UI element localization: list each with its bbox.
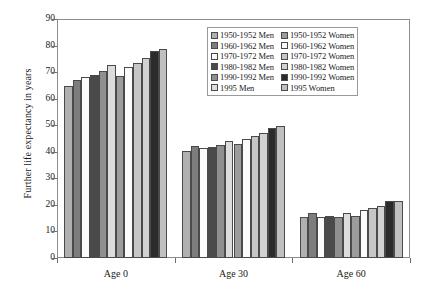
y-axis-tick-label: 20 [21, 200, 55, 210]
legend-swatch-icon [281, 53, 288, 60]
bar [90, 75, 99, 258]
legend-item[interactable]: 1995 Men [211, 83, 274, 94]
bar [107, 65, 116, 258]
legend-label: 1960-1962 Men [220, 41, 274, 52]
chart-legend: 1950-1952 Men1960-1962 Men1970-1972 Men1… [207, 27, 358, 96]
legend-item[interactable]: 1960-1962 Women [281, 41, 354, 52]
y-axis-tick-label: 30 [21, 174, 55, 184]
legend-item[interactable]: 1990-1992 Men [211, 72, 274, 83]
legend-label: 1950-1952 Men [220, 30, 274, 41]
y-axis-title: Further life expectancy in years [22, 24, 33, 244]
legend-swatch-icon [281, 74, 288, 81]
legend-item[interactable]: 1970-1972 Women [281, 51, 354, 62]
legend-label: 1980-1982 Women [290, 62, 354, 73]
legend-label: 1995 Women [290, 83, 335, 94]
y-axis-tick-label: 10 [21, 227, 55, 237]
bar [394, 201, 403, 258]
bar [133, 63, 142, 258]
bar [360, 210, 369, 258]
legend-item[interactable]: 1995 Women [281, 83, 354, 94]
legend-swatch-icon [281, 32, 288, 39]
legend-swatch-icon [211, 63, 218, 70]
y-axis-tick-label: 80 [21, 41, 55, 51]
y-axis-tick-label: 40 [21, 147, 55, 157]
legend-swatch-icon [211, 32, 218, 39]
bar [308, 213, 317, 258]
bar [73, 80, 82, 258]
legend-label: 1990-1992 Women [290, 72, 354, 83]
bar [159, 49, 168, 258]
x-axis-tick-mark [410, 258, 411, 263]
bar [276, 126, 285, 258]
legend-item[interactable]: 1950-1952 Men [211, 30, 274, 41]
legend-item[interactable]: 1990-1992 Women [281, 72, 354, 83]
legend-item[interactable]: 1970-1972 Men [211, 51, 274, 62]
bar [199, 148, 208, 258]
bar [343, 213, 352, 258]
bar [268, 128, 277, 258]
legend-swatch-icon [211, 53, 218, 60]
bar-group [64, 19, 167, 258]
legend-label: 1970-1972 Women [290, 51, 354, 62]
figure: Further life expectancy in years 0102030… [0, 0, 448, 295]
legend-item[interactable]: 1960-1962 Men [211, 41, 274, 52]
bar [300, 217, 309, 258]
legend-swatch-icon [211, 42, 218, 49]
y-axis-tick-label: 50 [21, 120, 55, 130]
bar [124, 67, 133, 258]
bar [64, 86, 73, 258]
x-axis-tick-mark [292, 258, 293, 263]
bar [317, 217, 326, 258]
x-axis-tick-label: Age 30 [189, 268, 279, 279]
bar [142, 58, 151, 258]
bar [234, 144, 243, 258]
bar [116, 76, 125, 258]
bar [251, 136, 260, 258]
bar [385, 201, 394, 258]
bar [351, 216, 360, 258]
bar [216, 145, 225, 258]
legend-column: 1950-1952 Women1960-1962 Women1970-1972 … [281, 30, 354, 93]
bar [208, 147, 217, 258]
bar [242, 139, 251, 258]
bar [334, 217, 343, 258]
x-axis-tick-label: Age 60 [306, 268, 396, 279]
bar [225, 141, 234, 258]
x-axis-tick-mark [175, 258, 176, 263]
legend-label: 1990-1992 Men [220, 72, 274, 83]
bar [259, 133, 268, 258]
bar [377, 206, 386, 258]
x-axis-tick-mark [57, 258, 58, 263]
legend-swatch-icon [211, 74, 218, 81]
y-axis-tick-label: 70 [21, 67, 55, 77]
legend-swatch-icon [211, 84, 218, 91]
legend-column: 1950-1952 Men1960-1962 Men1970-1972 Men1… [211, 30, 274, 93]
legend-label: 1960-1962 Women [290, 41, 354, 52]
legend-item[interactable]: 1950-1952 Women [281, 30, 354, 41]
legend-swatch-icon [281, 84, 288, 91]
y-axis-tick-label: 60 [21, 94, 55, 104]
legend-label: 1950-1952 Women [290, 30, 354, 41]
legend-label: 1995 Men [220, 83, 254, 94]
bar [191, 146, 200, 258]
y-axis-tick-label: 90 [21, 14, 55, 24]
bar [368, 208, 377, 258]
bar [81, 77, 90, 258]
legend-item[interactable]: 1980-1982 Men [211, 62, 274, 73]
legend-label: 1980-1982 Men [220, 62, 274, 73]
bar [99, 71, 108, 258]
legend-item[interactable]: 1980-1982 Women [281, 62, 354, 73]
bar [325, 216, 334, 258]
y-axis-tick-label: 0 [21, 253, 55, 263]
bar [182, 151, 191, 258]
legend-label: 1970-1972 Men [220, 51, 274, 62]
x-axis-tick-label: Age 0 [71, 268, 161, 279]
bar [150, 51, 159, 258]
legend-swatch-icon [281, 63, 288, 70]
legend-swatch-icon [281, 42, 288, 49]
